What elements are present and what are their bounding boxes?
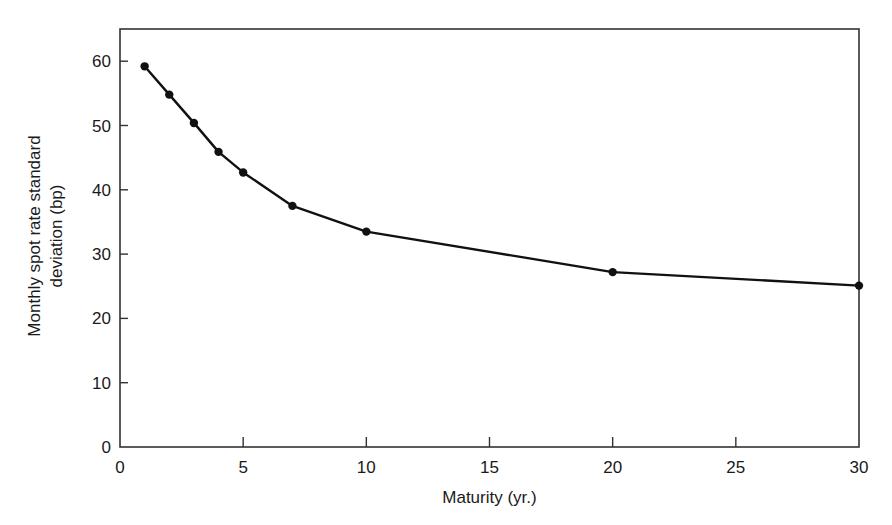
x-axis-title: Maturity (yr.) bbox=[442, 488, 536, 507]
data-point-marker bbox=[855, 281, 863, 289]
series-line bbox=[145, 66, 859, 285]
data-point-marker bbox=[214, 148, 222, 156]
data-point-marker bbox=[190, 119, 198, 127]
y-axis-title-line: deviation (bp) bbox=[47, 184, 66, 287]
plot-border bbox=[120, 29, 859, 447]
y-tick-label: 40 bbox=[92, 181, 111, 200]
x-tick-label: 5 bbox=[238, 458, 247, 477]
x-tick-label: 25 bbox=[726, 458, 745, 477]
y-tick-label: 0 bbox=[102, 438, 111, 457]
data-point-marker bbox=[239, 168, 247, 176]
x-tick-label: 20 bbox=[603, 458, 622, 477]
y-axis-title: Monthly spot rate standarddeviation (bp) bbox=[25, 135, 66, 336]
data-point-marker bbox=[362, 227, 370, 235]
line-chart: 0102030405060 051015202530 Maturity (yr.… bbox=[0, 0, 892, 525]
x-axis-ticks: 051015202530 bbox=[115, 437, 868, 477]
x-tick-label: 30 bbox=[850, 458, 869, 477]
x-tick-label: 15 bbox=[480, 458, 499, 477]
x-tick-label: 0 bbox=[115, 458, 124, 477]
data-point-marker bbox=[165, 90, 173, 98]
y-axis-ticks: 0102030405060 bbox=[92, 52, 128, 457]
chart-container: 0102030405060 051015202530 Maturity (yr.… bbox=[0, 0, 892, 525]
y-tick-label: 20 bbox=[92, 309, 111, 328]
y-tick-label: 50 bbox=[92, 117, 111, 136]
y-tick-label: 10 bbox=[92, 374, 111, 393]
y-tick-label: 30 bbox=[92, 245, 111, 264]
data-point-marker bbox=[288, 202, 296, 210]
plot-frame bbox=[120, 29, 859, 447]
data-series bbox=[140, 62, 863, 290]
data-point-marker bbox=[140, 62, 148, 70]
data-point-marker bbox=[608, 268, 616, 276]
x-tick-label: 10 bbox=[357, 458, 376, 477]
y-tick-label: 60 bbox=[92, 52, 111, 71]
y-axis-title-line: Monthly spot rate standard bbox=[25, 135, 44, 336]
